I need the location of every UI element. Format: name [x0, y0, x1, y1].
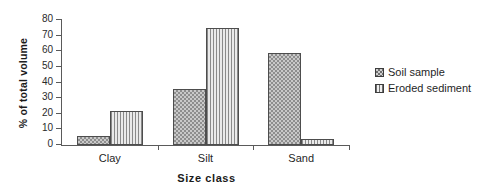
y-axis-tick: 60 — [56, 50, 62, 51]
y-axis-tick-label: 70 — [42, 30, 53, 40]
bar-sand-soil-sample — [268, 53, 301, 145]
legend-label: Eroded sediment — [388, 82, 471, 94]
y-axis-tick-label: 60 — [42, 45, 53, 55]
y-axis-tick: 30 — [56, 97, 62, 98]
bar-sand-eroded-sediment — [301, 139, 334, 145]
x-axis-category-label-sand: Sand — [288, 152, 314, 164]
legend-label: Soil sample — [388, 66, 445, 78]
bar-silt-soil-sample — [173, 89, 206, 145]
y-axis-tick: 70 — [56, 35, 62, 36]
y-axis-tick: 20 — [56, 113, 62, 114]
bar-clay-soil-sample — [77, 136, 110, 145]
y-axis-tick-label: 20 — [42, 108, 53, 118]
y-axis-tick-label: 0 — [47, 139, 53, 149]
bar-clay-eroded-sediment — [110, 111, 143, 145]
legend-swatch-icon — [375, 68, 384, 77]
y-axis-tick-label: 40 — [42, 77, 53, 87]
y-axis-tick: 80 — [56, 19, 62, 20]
y-axis-tick-label: 10 — [42, 123, 53, 133]
y-axis-tick-label: 30 — [42, 92, 53, 102]
y-axis-tick: 0 — [56, 144, 62, 145]
x-axis-tick — [253, 145, 254, 150]
legend-item-soil-sample: Soil sample — [375, 64, 471, 80]
x-axis-tick — [349, 145, 350, 150]
x-axis-tick — [158, 145, 159, 150]
x-axis-category-label-silt: Silt — [198, 152, 213, 164]
y-axis-line — [61, 20, 62, 146]
y-axis-title: % of total volume — [17, 38, 29, 128]
bar-silt-eroded-sediment — [206, 28, 239, 145]
bar-chart-figure: % of total volume 01020304050607080 Clay… — [0, 0, 498, 194]
y-axis-tick: 10 — [56, 128, 62, 129]
x-axis-line — [61, 145, 350, 146]
x-axis-title: Size class — [62, 172, 351, 184]
legend-item-eroded-sediment: Eroded sediment — [375, 80, 471, 96]
y-axis-tick: 40 — [56, 82, 62, 83]
x-axis-category-label-clay: Clay — [99, 152, 121, 164]
y-axis-tick: 50 — [56, 66, 62, 67]
legend-swatch-icon — [375, 84, 384, 93]
y-axis-tick-label: 80 — [42, 14, 53, 24]
plot-area: 01020304050607080 — [62, 20, 349, 145]
y-axis-tick-label: 50 — [42, 61, 53, 71]
y-axis-title-container: % of total volume — [10, 20, 36, 146]
chart-legend: Soil sampleEroded sediment — [375, 64, 471, 96]
